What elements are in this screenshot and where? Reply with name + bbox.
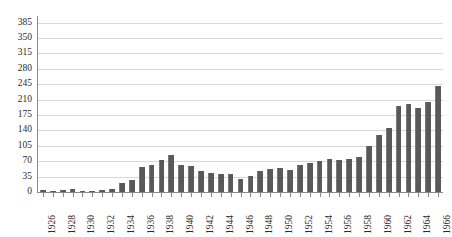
x-tick [320, 193, 321, 197]
bar [307, 163, 313, 192]
x-tick [92, 193, 93, 197]
x-tick-label: 1956 [343, 198, 353, 234]
x-tick-label: 1958 [363, 198, 373, 234]
x-tick [418, 193, 419, 197]
y-tick-label: 245 [18, 79, 32, 89]
bar [277, 168, 283, 192]
x-tick-label: 1946 [245, 198, 255, 234]
x-tick [53, 193, 54, 197]
bars-series [38, 16, 443, 192]
x-tick [181, 193, 182, 197]
x-tick [339, 193, 340, 197]
bar [435, 86, 441, 192]
bar [168, 155, 174, 192]
x-tick [359, 193, 360, 197]
x-tick [102, 193, 103, 197]
x-tick-label: 1934 [126, 198, 136, 234]
bar [287, 170, 293, 192]
bar [396, 106, 402, 192]
bar [376, 135, 382, 192]
x-tick [191, 193, 192, 197]
x-tick [221, 193, 222, 197]
x-tick [349, 193, 350, 197]
x-tick [201, 193, 202, 197]
y-tick-label: 210 [18, 95, 32, 105]
bar [297, 165, 303, 192]
x-tick [438, 193, 439, 197]
y-tick-label: 280 [18, 64, 32, 74]
bar [149, 165, 155, 192]
x-tick [428, 193, 429, 197]
bar [119, 183, 125, 192]
x-tick [152, 193, 153, 197]
x-tick [73, 193, 74, 197]
bar [415, 108, 421, 192]
x-tick [379, 193, 380, 197]
y-axis: 03570105140175210245280315350385 [0, 0, 34, 237]
bar [327, 159, 333, 192]
y-tick-label: 315 [18, 48, 32, 58]
bar [139, 167, 145, 192]
x-tick-label: 1948 [264, 198, 274, 234]
x-tick [270, 193, 271, 197]
x-tick [389, 193, 390, 197]
y-tick-label: 175 [18, 110, 32, 120]
x-tick-label: 1944 [225, 198, 235, 234]
bar [346, 159, 352, 192]
x-tick [290, 193, 291, 197]
y-tick-label: 350 [18, 33, 32, 43]
x-tick [231, 193, 232, 197]
x-tick-label: 1942 [205, 198, 215, 234]
bar [228, 174, 234, 192]
x-tick-label: 1932 [106, 198, 116, 234]
y-tick-label: 140 [18, 125, 32, 135]
x-tick [399, 193, 400, 197]
bar [336, 160, 342, 192]
x-tick [142, 193, 143, 197]
y-tick-label: 70 [23, 156, 33, 166]
bar [129, 180, 135, 192]
y-tick-label: 0 [27, 187, 32, 197]
x-tick [112, 193, 113, 197]
x-tick-label: 1928 [67, 198, 77, 234]
x-tick [300, 193, 301, 197]
bar [198, 171, 204, 192]
bar [218, 174, 224, 192]
x-tick [280, 193, 281, 197]
bar [208, 173, 214, 192]
x-tick [329, 193, 330, 197]
x-tick [122, 193, 123, 197]
x-tick-label: 1962 [403, 198, 413, 234]
x-tick-label: 1950 [284, 198, 294, 234]
plot-area [38, 16, 443, 192]
x-tick [310, 193, 311, 197]
bar [356, 157, 362, 192]
x-tick-label: 1940 [185, 198, 195, 234]
x-tick [43, 193, 44, 197]
x-tick [408, 193, 409, 197]
bar [317, 161, 323, 192]
x-tick-label: 1952 [304, 198, 314, 234]
bar [188, 166, 194, 192]
x-tick [171, 193, 172, 197]
x-tick [211, 193, 212, 197]
x-tick [369, 193, 370, 197]
y-tick-label: 385 [18, 18, 32, 28]
bar [406, 104, 412, 192]
x-tick-label: 1966 [442, 198, 452, 234]
x-tick [161, 193, 162, 197]
x-tick [260, 193, 261, 197]
x-tick-label: 1936 [146, 198, 156, 234]
y-tick-label: 35 [23, 172, 33, 182]
bar [267, 169, 273, 192]
bar [257, 171, 263, 192]
x-tick-label: 1964 [422, 198, 432, 234]
x-tick-label: 1926 [47, 198, 57, 234]
x-tick [241, 193, 242, 197]
x-axis: 1926192819301932193419361938194019421944… [38, 198, 443, 236]
bar [386, 128, 392, 192]
y-tick-label: 105 [18, 141, 32, 151]
bar [178, 165, 184, 192]
x-tick-label: 1938 [165, 198, 175, 234]
